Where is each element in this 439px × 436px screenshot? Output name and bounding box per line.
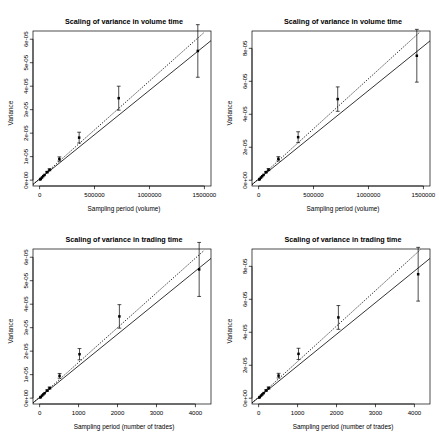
y-tick-label: 0e+00: [241, 389, 248, 407]
y-axis-title: Variance: [226, 100, 233, 125]
data-point-marker: [117, 97, 120, 100]
data-point-marker: [197, 50, 200, 53]
x-tick-label: 1000000: [357, 191, 381, 198]
data-point-marker: [46, 171, 49, 174]
y-tick-label: 4e-05: [22, 78, 29, 94]
y-tick-label: 2e-05: [241, 357, 248, 373]
x-tick-label: 1000000: [138, 191, 162, 198]
plot-area: 0500000100000015000000e+002e-054e-056e-0…: [241, 29, 436, 198]
x-tick-label: 500000: [303, 191, 324, 198]
scaling-of-variance-figure: Scaling of variance in volume time Sampl…: [0, 0, 439, 436]
fitted-line: [33, 258, 211, 402]
data-point-marker: [337, 316, 340, 319]
plot-area: 010002000300040000e+002e-054e-056e-058e-…: [241, 247, 430, 416]
y-tick-label: 2e-05: [22, 125, 29, 141]
y-tick-label: 0e+00: [22, 171, 29, 189]
fitted-line: [33, 41, 211, 185]
data-point-marker: [43, 174, 46, 177]
x-tick-label: 1000: [291, 409, 305, 416]
y-tick-label: 2e-05: [22, 343, 29, 359]
data-point-marker: [267, 168, 270, 171]
y-tick-label: 4e-05: [241, 106, 248, 122]
reference-line: [252, 32, 420, 185]
fitted-line: [252, 258, 430, 402]
y-tick-label: 3e-05: [22, 101, 29, 117]
y-axis-title: Variance: [7, 100, 14, 125]
panel-title: Scaling of variance in volume time: [284, 17, 402, 26]
panel-bottom-right-trading-time: Scaling of variance in trading time Samp…: [219, 218, 438, 436]
y-tick-label: 1e-05: [22, 148, 29, 164]
x-axis-title: Sampling period (number of trades): [293, 423, 394, 431]
fitted-line: [252, 41, 430, 185]
panel-bottom-left-trading-time: Scaling of variance in trading time Samp…: [0, 218, 219, 436]
data-point-marker: [48, 169, 51, 172]
data-point-marker: [417, 273, 420, 276]
data-point-marker: [297, 353, 300, 356]
y-tick-label: 1e-05: [22, 366, 29, 382]
y-tick-label: 6e-05: [241, 73, 248, 89]
x-tick-label: 2000: [111, 409, 125, 416]
y-tick-label: 6e-05: [22, 249, 29, 265]
data-point-marker: [336, 98, 339, 101]
panel-top-right-volume-time: Scaling of variance in volume time Sampl…: [219, 0, 438, 218]
y-tick-label: 5e-05: [22, 272, 29, 288]
chart-svg-bottom-right: Scaling of variance in trading time Samp…: [219, 218, 438, 436]
x-tick-label: 4000: [408, 409, 422, 416]
x-axis-title: Sampling period (volume): [88, 205, 161, 213]
x-tick-label: 0: [257, 191, 261, 198]
reference-line: [252, 250, 420, 403]
data-point-marker: [78, 353, 81, 356]
y-tick-label: 8e-05: [241, 40, 248, 56]
x-tick-label: 1500000: [412, 191, 436, 198]
data-point-marker: [78, 136, 81, 139]
x-tick-label: 0: [38, 191, 42, 198]
data-point-marker: [48, 387, 51, 390]
y-tick-label: 6e-05: [22, 31, 29, 47]
data-point-marker: [265, 389, 268, 392]
data-point-marker: [262, 392, 265, 395]
panel-title: Scaling of variance in volume time: [65, 17, 183, 26]
panel-top-left-volume-time: Scaling of variance in volume time Sampl…: [0, 0, 219, 218]
plot-area: 010002000300040000e+001e-052e-053e-054e-…: [22, 242, 211, 416]
y-axis-title: Variance: [226, 318, 233, 343]
data-point-marker: [118, 315, 121, 318]
chart-svg-top-left: Scaling of variance in volume time Sampl…: [0, 0, 219, 218]
y-axis-title: Variance: [7, 318, 14, 343]
y-tick-label: 5e-05: [22, 54, 29, 70]
reference-line: [33, 250, 204, 403]
data-point-marker: [198, 268, 201, 271]
x-tick-label: 500000: [84, 191, 105, 198]
data-point-marker: [262, 174, 265, 177]
x-tick-label: 1000: [72, 409, 86, 416]
data-point-marker: [265, 171, 268, 174]
y-tick-label: 0e+00: [22, 389, 29, 407]
y-tick-label: 0e+00: [241, 171, 248, 189]
y-tick-label: 2e-05: [241, 139, 248, 155]
x-tick-label: 1500000: [193, 191, 217, 198]
x-axis-title: Sampling period (volume): [307, 205, 380, 213]
y-tick-label: 4e-05: [241, 324, 248, 340]
data-point-marker: [277, 374, 280, 377]
data-point-marker: [277, 158, 280, 161]
y-tick-label: 6e-05: [241, 291, 248, 307]
x-tick-label: 3000: [150, 409, 164, 416]
x-tick-label: 2000: [330, 409, 344, 416]
y-tick-label: 8e-05: [241, 258, 248, 274]
x-axis-title: Sampling period (number of trades): [74, 423, 175, 431]
x-tick-label: 0: [257, 409, 261, 416]
chart-svg-bottom-left: Scaling of variance in trading time Samp…: [0, 218, 219, 436]
y-tick-label: 3e-05: [22, 319, 29, 335]
data-point-marker: [58, 158, 61, 161]
x-tick-label: 3000: [369, 409, 383, 416]
data-point-marker: [58, 375, 61, 378]
x-tick-label: 0: [38, 409, 42, 416]
plot-area: 0500000100000015000000e+001e-052e-053e-0…: [22, 25, 217, 198]
data-point-marker: [267, 387, 270, 390]
panel-title: Scaling of variance in trading time: [284, 235, 401, 244]
x-tick-label: 4000: [189, 409, 203, 416]
data-point-marker: [297, 136, 300, 139]
data-point-marker: [43, 392, 46, 395]
data-point-marker: [416, 54, 419, 57]
data-point-marker: [46, 389, 49, 392]
panel-title: Scaling of variance in trading time: [65, 235, 182, 244]
